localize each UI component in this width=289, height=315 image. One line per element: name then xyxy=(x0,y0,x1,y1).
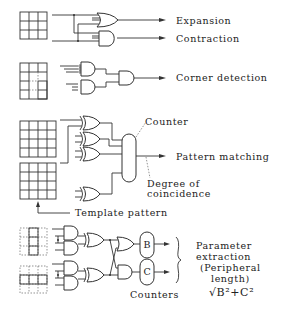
grid-vertical-pattern xyxy=(20,228,47,255)
label-parameter: Parameter xyxy=(196,240,252,251)
label-template-pattern: Template pattern xyxy=(75,207,168,218)
label-counter: Counter xyxy=(145,116,188,127)
xor-gate-icon xyxy=(80,116,100,130)
and-gate-icon xyxy=(118,265,132,279)
label-pattern-matching: Pattern matching xyxy=(176,151,269,162)
grid-4x4-template xyxy=(20,163,56,199)
label-corner-detection: Corner detection xyxy=(176,72,268,83)
grid-horizontal-pattern xyxy=(20,266,47,293)
and-gate-icon xyxy=(64,226,78,240)
arrow-icon xyxy=(164,270,170,274)
brace-icon xyxy=(176,237,181,283)
and-gate-icon xyxy=(64,241,78,255)
counter-block xyxy=(122,134,136,182)
row-parameter-extraction: B C Counters Parameter extraction (Perip… xyxy=(20,226,261,300)
or-gate-icon xyxy=(117,237,134,251)
row-corner-detection: Corner detection xyxy=(20,62,268,99)
xor-gate-icon xyxy=(84,233,104,247)
xor-gate-icon xyxy=(80,187,100,201)
image-processing-diagram: Expansion Contraction xyxy=(0,0,289,315)
formula-sqrt-b2-c2: √B²+C² xyxy=(209,286,254,299)
and-gate-icon xyxy=(64,276,78,290)
label-counter-b: B xyxy=(144,239,152,250)
label-length: length) xyxy=(211,273,250,284)
row-pattern-matching: Counter Pattern matching Degree of coinc… xyxy=(20,116,269,218)
row-expansion-contraction: Expansion Contraction xyxy=(20,12,240,46)
xor-gate-icon xyxy=(80,147,100,161)
label-expansion: Expansion xyxy=(176,15,231,26)
label-coincidence: coincidence xyxy=(147,188,211,199)
label-peripheral: (Peripheral xyxy=(200,262,261,273)
arrow-icon xyxy=(164,242,170,246)
grid-4x4-input xyxy=(20,121,56,157)
and-gate-icon xyxy=(81,80,95,94)
arrow-icon xyxy=(159,76,166,80)
xor-gate-icon xyxy=(84,268,104,282)
and-gate-icon xyxy=(99,31,114,46)
arrow-icon xyxy=(159,18,166,22)
and-gate-icon xyxy=(119,71,134,85)
arrow-icon xyxy=(159,154,166,158)
or-gate-icon xyxy=(97,13,118,27)
label-counters: Counters xyxy=(130,289,179,300)
and-gate-icon xyxy=(64,261,78,275)
label-extraction: extraction xyxy=(196,251,251,262)
label-contraction: Contraction xyxy=(176,33,240,44)
arrow-icon xyxy=(159,36,166,40)
grid-3x3 xyxy=(20,12,47,39)
and-gate-icon xyxy=(81,62,95,76)
xor-gate-icon xyxy=(80,132,100,146)
label-counter-c: C xyxy=(144,266,152,277)
arrow-up-icon xyxy=(36,201,40,207)
grid-corner xyxy=(20,63,47,99)
